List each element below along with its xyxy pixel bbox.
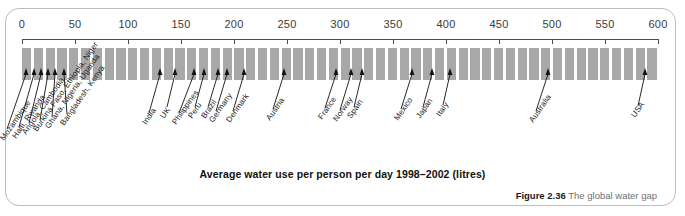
figure-caption: Figure 2.36 The global water gap (516, 190, 657, 201)
figure-caption-text: The global water gap (568, 190, 657, 201)
figure-number: Figure 2.36 (516, 190, 566, 201)
country-label: Australia (527, 93, 553, 124)
country-label: Italy (434, 100, 450, 118)
country-label: Mexico (392, 96, 414, 122)
country-label-layer: MozambiqueHaiti, RwandaAngola, CambodiaB… (0, 0, 685, 216)
figure-global-water-gap: 050100150200250300350400450500550600 Moz… (0, 0, 685, 216)
country-label: UK (158, 106, 172, 120)
country-label: USA (629, 100, 646, 119)
country-label: Japan (414, 97, 434, 120)
country-label: Austria (264, 96, 286, 122)
country-label: India (140, 106, 158, 126)
axis-title: Average water use per person per day 199… (0, 168, 685, 180)
